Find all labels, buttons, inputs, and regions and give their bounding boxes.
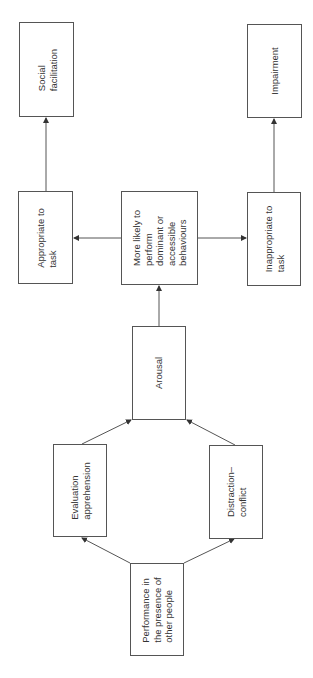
node-label: More likely to perform dominant or acces… — [131, 210, 189, 266]
arrow-presence-to-distraction — [184, 539, 234, 563]
node-label: Evaluation apprehension — [69, 462, 92, 520]
node-label: Inappropriate to task — [263, 206, 286, 273]
arrow-presence-to-evaluation — [82, 538, 130, 563]
node-label: Arousal — [153, 357, 165, 389]
node-label: Distraction– conflict — [225, 467, 248, 517]
node-impairment: Impairment — [247, 24, 302, 118]
node-appropriate-to-task: Appropriate to task — [18, 191, 73, 284]
node-label: Social facilitation — [35, 48, 58, 90]
node-inappropriate-to-task: Inappropriate to task — [247, 192, 301, 286]
arrow-evaluation-to-arousal — [82, 420, 131, 444]
node-social-facilitation: Social facilitation — [19, 22, 74, 117]
node-label: Impairment — [269, 47, 281, 95]
node-performance-presence: Performance in the presence of other peo… — [130, 563, 184, 656]
node-label: Appropriate to task — [34, 208, 57, 268]
arrow-distraction-to-arousal — [187, 420, 235, 445]
node-distraction-conflict: Distraction– conflict — [209, 445, 263, 539]
node-dominant-behaviours: More likely to perform dominant or acces… — [121, 191, 198, 285]
node-arousal: Arousal — [132, 326, 186, 420]
node-evaluation-apprehension: Evaluation apprehension — [53, 444, 107, 537]
node-label: Performance in the presence of other peo… — [140, 577, 175, 643]
